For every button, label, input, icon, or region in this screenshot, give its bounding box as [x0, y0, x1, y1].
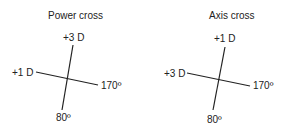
- power-cross-left-label: +1 D: [12, 67, 33, 78]
- axis-cross-right-label: 170º: [253, 80, 273, 91]
- power-cross-title: Power cross: [48, 10, 103, 21]
- axis-cross-top-label: +1 D: [214, 33, 235, 44]
- axis-cross-bottom-label: 80º: [207, 114, 222, 125]
- axis-cross-title: Axis cross: [209, 10, 255, 21]
- axis-cross-lines: [187, 47, 250, 110]
- power-cross-top-label: +3 D: [63, 32, 84, 43]
- axis-cross-left-label: +3 D: [164, 68, 185, 79]
- power-cross-bottom-label: 80º: [56, 112, 71, 123]
- power-cross-right-label: 170º: [101, 80, 121, 91]
- power-cross-lines: [36, 45, 98, 110]
